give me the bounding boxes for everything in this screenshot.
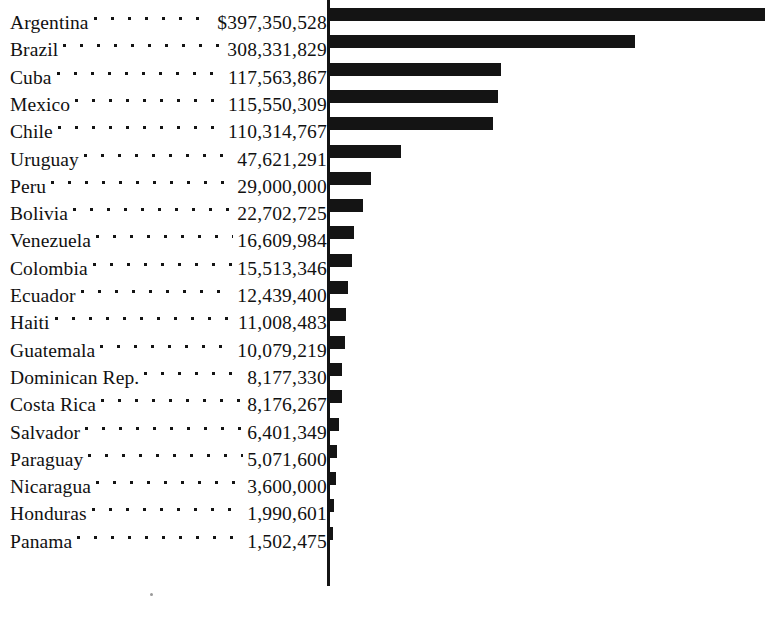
dot-leader (100, 330, 233, 357)
chart-row: Panama1,502,475 (0, 521, 775, 548)
dot-leader (55, 302, 234, 329)
dot-leader (88, 439, 243, 466)
chart-row: Haiti11,008,483 (0, 302, 775, 329)
chart-row: Uruguay47,621,291 (0, 139, 775, 166)
row-label-area: Nicaragua3,600,000 (10, 466, 327, 493)
print-speck (150, 593, 153, 596)
chart-row: Venezuela16,609,984 (0, 220, 775, 247)
bar (329, 63, 501, 76)
row-label-area: Bolivia22,702,725 (10, 193, 327, 220)
row-label-area: Ecuador12,439,400 (10, 275, 327, 302)
row-label-area: Cuba117,563,867 (10, 57, 327, 84)
row-label-area: Panama1,502,475 (10, 521, 327, 548)
row-label-area: Dominican Rep.8,177,330 (10, 357, 327, 384)
chart-row: Chile110,314,767 (0, 111, 775, 138)
chart-row: Guatemala10,079,219 (0, 330, 775, 357)
dot-leader (58, 111, 224, 138)
bar (329, 226, 354, 239)
dot-leader (81, 275, 234, 302)
chart-row: Mexico115,550,309 (0, 84, 775, 111)
bar (329, 117, 493, 130)
bar (329, 472, 336, 485)
chart-row: Honduras1,990,601 (0, 493, 775, 520)
chart-row: Argentina$397,350,528 (0, 2, 775, 29)
dot-leader (94, 2, 214, 29)
bar (329, 145, 401, 158)
bar (329, 390, 342, 403)
bar (329, 254, 352, 267)
row-label-area: Chile110,314,767 (10, 111, 327, 138)
bar (329, 90, 498, 103)
dot-leader (101, 384, 243, 411)
chart-row: Nicaragua3,600,000 (0, 466, 775, 493)
bar (329, 418, 339, 431)
dot-leader (93, 248, 234, 275)
chart-row: Cuba117,563,867 (0, 57, 775, 84)
dot-leader (73, 193, 233, 220)
bar (329, 172, 371, 185)
bar (329, 499, 334, 512)
chart-row: Colombia15,513,346 (0, 248, 775, 275)
chart-row: Peru29,000,000 (0, 166, 775, 193)
bar (329, 445, 337, 458)
bar (329, 35, 635, 48)
bar (329, 308, 346, 321)
row-label-area: Argentina$397,350,528 (10, 2, 327, 29)
bar (329, 8, 765, 21)
dot-leader (77, 521, 243, 548)
bar (329, 527, 333, 540)
row-label-area: Costa Rica8,176,267 (10, 384, 327, 411)
chart-row: Salvador6,401,349 (0, 412, 775, 439)
row-label-area: Guatemala10,079,219 (10, 330, 327, 357)
dot-leader (84, 139, 233, 166)
row-label-area: Salvador6,401,349 (10, 412, 327, 439)
dot-leader (85, 412, 243, 439)
chart-row: Costa Rica8,176,267 (0, 384, 775, 411)
row-label-area: Uruguay47,621,291 (10, 139, 327, 166)
chart-row: Dominican Rep.8,177,330 (0, 357, 775, 384)
row-label-area: Haiti11,008,483 (10, 302, 327, 329)
row-label-area: Venezuela16,609,984 (10, 220, 327, 247)
value-label: 1,502,475 (247, 528, 327, 555)
country-label: Panama (10, 528, 72, 555)
dot-leader (63, 29, 223, 56)
bar (329, 281, 348, 294)
row-label-area: Peru29,000,000 (10, 166, 327, 193)
bar (329, 199, 363, 212)
chart-row: Brazil308,331,829 (0, 29, 775, 56)
row-label-area: Honduras1,990,601 (10, 493, 327, 520)
chart-row: Paraguay5,071,600 (0, 439, 775, 466)
chart-row: Ecuador12,439,400 (0, 275, 775, 302)
row-label-area: Paraguay5,071,600 (10, 439, 327, 466)
dot-leader (144, 357, 243, 384)
dot-leader (96, 466, 243, 493)
chart-row: Bolivia22,702,725 (0, 193, 775, 220)
row-label-area: Mexico115,550,309 (10, 84, 327, 111)
bar-chart: Argentina$397,350,528Brazil308,331,829Cu… (0, 0, 775, 617)
dot-leader (57, 57, 224, 84)
dot-leader (96, 220, 233, 247)
dot-leader (92, 493, 244, 520)
dot-leader (51, 166, 233, 193)
bar (329, 336, 345, 349)
row-label-area: Colombia15,513,346 (10, 248, 327, 275)
row-label-area: Brazil308,331,829 (10, 29, 327, 56)
bar (329, 363, 342, 376)
dot-leader (75, 84, 224, 111)
